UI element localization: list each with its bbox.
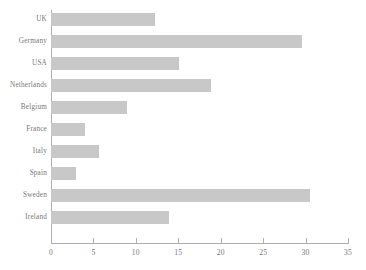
bar-category-label: USA <box>0 56 47 70</box>
x-axis-tick-mark <box>178 238 179 244</box>
bar-category-label: Netherlands <box>0 78 47 92</box>
bar <box>51 13 155 26</box>
bar <box>51 101 127 114</box>
x-axis-tick-mark <box>306 238 307 244</box>
x-axis-tick-label: 35 <box>333 248 363 257</box>
bar-category-label: UK <box>0 12 47 26</box>
x-axis-tick-label: 10 <box>121 248 151 257</box>
x-axis-tick-mark <box>348 238 349 244</box>
bar-row: UK <box>0 13 366 26</box>
bar-category-label: Sweden <box>0 188 47 202</box>
bar-row: Netherlands <box>0 79 366 92</box>
x-axis-tick-label: 5 <box>78 248 108 257</box>
bar-category-label: France <box>0 122 47 136</box>
bar-row: Italy <box>0 145 366 158</box>
bar-row: USA <box>0 57 366 70</box>
x-axis-tick-mark <box>221 238 222 244</box>
x-axis-line <box>51 243 348 244</box>
x-axis-tick-label: 15 <box>163 248 193 257</box>
bar-row: Ireland <box>0 211 366 224</box>
bar-row: Sweden <box>0 189 366 202</box>
bar <box>51 123 85 136</box>
x-axis-tick-label: 25 <box>248 248 278 257</box>
x-axis-tick-mark <box>263 238 264 244</box>
bar-chart: UKGermanyUSANetherlandsBelgiumFranceItal… <box>0 0 366 270</box>
bar <box>51 57 179 70</box>
bar-category-label: Belgium <box>0 100 47 114</box>
x-axis-tick-label: 20 <box>206 248 236 257</box>
bar-row: Spain <box>0 167 366 180</box>
x-axis-tick-mark <box>93 238 94 244</box>
bar <box>51 35 302 48</box>
x-axis-tick-mark <box>51 238 52 244</box>
bar-category-label: Spain <box>0 166 47 180</box>
bar <box>51 189 310 202</box>
bar <box>51 167 76 180</box>
bar <box>51 145 99 158</box>
bar-row: Belgium <box>0 101 366 114</box>
x-axis-tick-label: 0 <box>36 248 66 257</box>
x-axis-tick-mark <box>136 238 137 244</box>
bar-row: Germany <box>0 35 366 48</box>
bar-category-label: Italy <box>0 144 47 158</box>
bar-row: France <box>0 123 366 136</box>
x-axis-tick-label: 30 <box>291 248 321 257</box>
bar-category-label: Ireland <box>0 210 47 224</box>
bar <box>51 79 211 92</box>
bar <box>51 211 169 224</box>
bar-category-label: Germany <box>0 34 47 48</box>
